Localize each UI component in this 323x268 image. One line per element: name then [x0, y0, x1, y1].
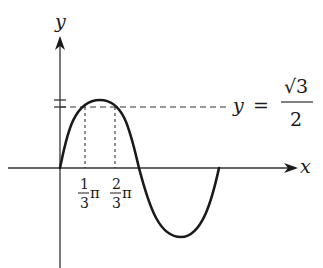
x-axis-label: x [300, 155, 311, 177]
sine-graph-diagram: y x 1 3 π 2 3 π y = √3 2 [0, 0, 323, 268]
equation-denominator: 2 [290, 108, 302, 130]
equation-label: y = √3 2 [232, 75, 313, 130]
equation-equals: = [253, 94, 269, 116]
equation-lhs: y [232, 94, 244, 116]
y-axis-label: y [54, 10, 66, 32]
marker-1-pi: π [90, 184, 100, 202]
equation-numerator: √3 [284, 75, 308, 97]
marker-1-numerator: 1 [80, 176, 89, 192]
marker-2-denominator: 3 [112, 195, 121, 211]
marker-1-denominator: 3 [80, 195, 89, 211]
marker-label-pi-over-3: 1 3 π [78, 176, 100, 211]
marker-2-numerator: 2 [112, 176, 121, 192]
marker-2-pi: π [122, 184, 132, 202]
marker-label-2pi-over-3: 2 3 π [110, 176, 132, 211]
